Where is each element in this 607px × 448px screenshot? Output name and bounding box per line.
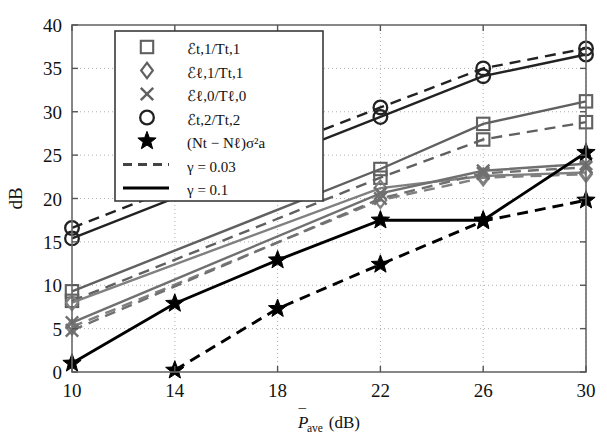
x-tick-label: 22 (371, 380, 390, 401)
x-tick-label: 30 (577, 380, 596, 401)
legend-label: ℰt,1/Tt,1 (187, 41, 240, 57)
x-tick-label: 26 (474, 380, 493, 401)
legend-label: ℰt,2/Tt,2 (187, 112, 240, 128)
legend-label: γ = 0.1 (186, 182, 228, 198)
figure-container: 0510152025303540101418222630 ℰt,1/Tt,1ℰℓ… (0, 0, 607, 448)
x-tick-label: 10 (63, 380, 82, 401)
legend-label: ℰℓ,0/Tℓ,0 (187, 88, 246, 104)
chart-svg: 0510152025303540101418222630 ℰt,1/Tt,1ℰℓ… (0, 0, 607, 448)
legend-label: γ = 0.03 (186, 159, 236, 175)
x-tick-label: 14 (165, 380, 185, 401)
legend-label: (Nt − Nℓ)σ²a (187, 135, 266, 152)
y-tick-label: 20 (43, 189, 62, 210)
y-tick-label: 40 (43, 15, 62, 36)
y-axis-title: dB (5, 187, 26, 209)
y-tick-label: 5 (53, 319, 63, 340)
y-tick-label: 10 (43, 275, 62, 296)
legend: ℰt,1/Tt,1ℰℓ,1/Tt,1ℰℓ,0/Tℓ,0ℰt,2/Tt,2(Nt … (115, 31, 323, 201)
y-tick-label: 0 (53, 362, 63, 383)
legend-label: ℰℓ,1/Tt,1 (187, 65, 243, 81)
x-tick-label: 18 (268, 380, 287, 401)
y-tick-label: 35 (43, 58, 62, 79)
y-tick-label: 15 (43, 232, 62, 253)
y-tick-label: 30 (43, 102, 62, 123)
y-tick-label: 25 (43, 145, 62, 166)
